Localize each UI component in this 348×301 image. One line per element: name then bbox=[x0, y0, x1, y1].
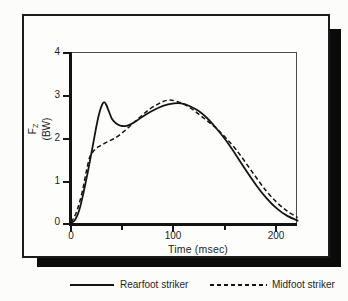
y-tick-4 bbox=[63, 52, 69, 54]
x-tick-50 bbox=[121, 226, 123, 230]
legend-sample-rearfoot bbox=[70, 284, 114, 286]
y-axis-line bbox=[69, 52, 72, 226]
y-tick-3 bbox=[63, 95, 69, 97]
y-axis-title: FZ (BW) bbox=[27, 107, 59, 151]
legend-label-midfoot: Midfoot striker bbox=[272, 279, 335, 290]
y-tick-1 bbox=[63, 181, 69, 183]
figure-box: 4 3 2 1 0 0 100 200 Time (msec) FZ (BW) bbox=[22, 14, 330, 258]
y-axis-subscript: Z bbox=[32, 124, 39, 128]
y-tick-label-1: 1 bbox=[42, 175, 60, 187]
y-axis-unit: (BW) bbox=[41, 118, 52, 141]
y-tick-2 bbox=[63, 138, 69, 140]
y-tick-label-0: 0 bbox=[42, 216, 60, 228]
y-tick-0 bbox=[63, 223, 69, 225]
plot-frame-top bbox=[72, 52, 297, 53]
x-axis-title: Time (msec) bbox=[123, 243, 273, 255]
legend-label-rearfoot: Rearfoot striker bbox=[120, 279, 188, 290]
legend-sample-midfoot bbox=[210, 284, 267, 286]
y-axis-symbol: F bbox=[27, 128, 38, 134]
y-tick-label-4: 4 bbox=[42, 46, 60, 58]
x-axis-line bbox=[69, 223, 297, 226]
plot-frame-right bbox=[296, 52, 297, 223]
x-tick-label-100: 100 bbox=[153, 230, 193, 242]
x-tick-150 bbox=[224, 226, 226, 230]
x-tick-label-0: 0 bbox=[51, 230, 91, 242]
x-tick-label-200: 200 bbox=[256, 230, 296, 242]
y-tick-label-3: 3 bbox=[42, 89, 60, 101]
